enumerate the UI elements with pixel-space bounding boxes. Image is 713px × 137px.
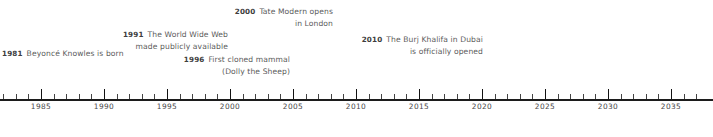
axis-tick-major — [545, 89, 546, 99]
axis-tick-minor — [318, 94, 319, 99]
axis-tick-major — [671, 89, 672, 99]
event-description-line-1: The Burj Khalifa in Dubai — [386, 35, 483, 44]
axis-tick-label: 2020 — [472, 102, 492, 111]
axis-tick-minor — [343, 94, 344, 99]
event-year: 2000 — [235, 7, 256, 16]
axis-tick-minor — [255, 94, 256, 99]
event-year: 1981 — [2, 49, 23, 58]
axis-tick-minor — [79, 94, 80, 99]
event-description-line-1: The World Wide Web — [148, 30, 228, 39]
axis-tick-minor — [558, 94, 559, 99]
axis-tick-minor — [684, 94, 685, 99]
axis-tick-minor — [280, 94, 281, 99]
event-description-line-1: First cloned mammal — [208, 55, 290, 64]
axis-tick-minor — [28, 94, 29, 99]
axis-tick-minor — [646, 94, 647, 99]
event-description-line-1: Tate Modern opens — [259, 7, 333, 16]
axis-tick-minor — [154, 94, 155, 99]
axis-tick-minor — [495, 94, 496, 99]
axis-tick-label: 2030 — [598, 102, 618, 111]
axis-tick-minor — [570, 94, 571, 99]
axis-tick-major — [293, 89, 294, 99]
axis-tick-label: 2015 — [409, 102, 429, 111]
axis-line — [0, 99, 713, 101]
axis-tick-minor — [520, 94, 521, 99]
axis-tick-label: 2010 — [346, 102, 366, 111]
axis-tick-minor — [406, 94, 407, 99]
timeline-event: 2000Tate Modern opensin London — [235, 3, 333, 29]
axis-tick-minor — [306, 94, 307, 99]
axis-tick-minor — [66, 94, 67, 99]
axis-tick-minor — [3, 94, 4, 99]
axis-tick-minor — [91, 94, 92, 99]
event-year: 2010 — [362, 35, 383, 44]
axis-tick-minor — [621, 94, 622, 99]
axis-tick-minor — [532, 94, 533, 99]
axis-tick-minor — [129, 94, 130, 99]
axis-tick-minor — [633, 94, 634, 99]
axis-tick-minor — [583, 94, 584, 99]
axis-tick-minor — [457, 94, 458, 99]
axis-tick-minor — [16, 94, 17, 99]
axis-tick-minor — [507, 94, 508, 99]
axis-tick-minor — [394, 94, 395, 99]
axis-tick-minor — [331, 94, 332, 99]
axis-tick-minor — [217, 94, 218, 99]
axis-tick-major — [230, 89, 231, 99]
axis-tick-minor — [54, 94, 55, 99]
axis-tick-minor — [595, 94, 596, 99]
axis-tick-label: 1990 — [94, 102, 114, 111]
axis-tick-minor — [268, 94, 269, 99]
event-description-line-1: Beyoncé Knowles is born — [27, 49, 124, 58]
axis-tick-minor — [432, 94, 433, 99]
axis-tick-label: 2025 — [535, 102, 555, 111]
timeline-figure: 1981Beyoncé Knowles is born1991The World… — [0, 0, 713, 137]
event-year: 1991 — [123, 30, 144, 39]
axis-tick-minor — [369, 94, 370, 99]
axis-tick-major — [608, 89, 609, 99]
axis-tick-major — [356, 89, 357, 99]
axis-tick-minor — [192, 94, 193, 99]
axis-tick-minor — [444, 94, 445, 99]
axis-tick-minor — [205, 94, 206, 99]
axis-tick-minor — [469, 94, 470, 99]
axis-tick-minor — [117, 94, 118, 99]
timeline-event: 2010The Burj Khalifa in Dubaiis official… — [362, 31, 483, 57]
axis-tick-minor — [696, 94, 697, 99]
axis-tick-minor — [180, 94, 181, 99]
axis-tick-minor — [243, 94, 244, 99]
event-primary-line: 2010The Burj Khalifa in Dubai — [362, 31, 483, 46]
timeline-event: 1996First cloned mammal(Dolly the Sheep) — [184, 51, 290, 77]
event-primary-line: 1981Beyoncé Knowles is born — [2, 45, 124, 60]
axis-tick-label: 2035 — [661, 102, 681, 111]
axis-tick-minor — [658, 94, 659, 99]
axis-tick-major — [482, 89, 483, 99]
axis-tick-major — [167, 89, 168, 99]
event-primary-line: 1991The World Wide Web — [123, 26, 228, 41]
axis-tick-label: 2000 — [220, 102, 240, 111]
timeline-event: 1991The World Wide Webmade publicly avai… — [123, 26, 228, 52]
event-description-line-2: is officially opened — [362, 46, 483, 58]
event-description-line-2: (Dolly the Sheep) — [184, 66, 290, 78]
axis-tick-minor — [381, 94, 382, 99]
timeline-event: 1981Beyoncé Knowles is born — [2, 45, 124, 60]
axis-tick-label: 1995 — [157, 102, 177, 111]
event-primary-line: 1996First cloned mammal — [184, 51, 290, 66]
axis-tick-major — [41, 89, 42, 99]
axis-tick-label: 2005 — [283, 102, 303, 111]
axis-tick-major — [419, 89, 420, 99]
event-year: 1996 — [184, 55, 205, 64]
axis-tick-minor — [142, 94, 143, 99]
axis-tick-major — [104, 89, 105, 99]
axis-tick-label: 1985 — [31, 102, 51, 111]
event-description-line-2: in London — [235, 18, 333, 30]
timeline-axis: 1985199019952000200520102015202020252030… — [0, 88, 713, 137]
event-primary-line: 2000Tate Modern opens — [235, 3, 333, 18]
